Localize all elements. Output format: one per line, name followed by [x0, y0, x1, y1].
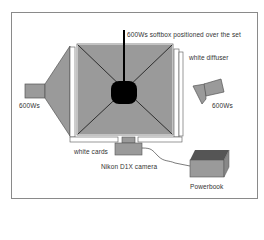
camera-label: Nikon D1X camera — [101, 163, 157, 170]
right-light-label: 600Ws — [212, 102, 233, 109]
right-light-icon — [193, 79, 224, 104]
diffuser-label: white diffuser — [189, 54, 229, 61]
powerbook-label: Powerbook — [190, 183, 223, 190]
softbox-set — [77, 30, 173, 135]
left-light-icon — [25, 46, 70, 136]
white-cards-label: white cards — [74, 148, 108, 155]
left-light-label: 600Ws — [19, 102, 40, 109]
powerbook-icon — [190, 150, 229, 177]
softbox-label: 600Ws softbox positioned over the set — [127, 31, 241, 38]
